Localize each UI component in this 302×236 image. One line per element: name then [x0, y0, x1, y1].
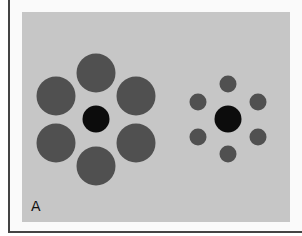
surround-circle [220, 146, 237, 163]
ebbinghaus-illusion [0, 0, 302, 236]
panel-label: A [31, 198, 41, 214]
surround-circle [77, 54, 116, 93]
surround-circle [190, 129, 207, 146]
surround-circle [37, 124, 76, 163]
left-cluster [37, 54, 156, 186]
surround-circle [190, 94, 207, 111]
surround-circle [250, 129, 267, 146]
center-circle [215, 106, 242, 133]
right-cluster [190, 76, 267, 163]
center-circle [83, 106, 110, 133]
surround-circle [250, 94, 267, 111]
surround-circle [220, 76, 237, 93]
surround-circle [117, 124, 156, 163]
surround-circle [37, 77, 76, 116]
surround-circle [117, 77, 156, 116]
surround-circle [77, 147, 116, 186]
